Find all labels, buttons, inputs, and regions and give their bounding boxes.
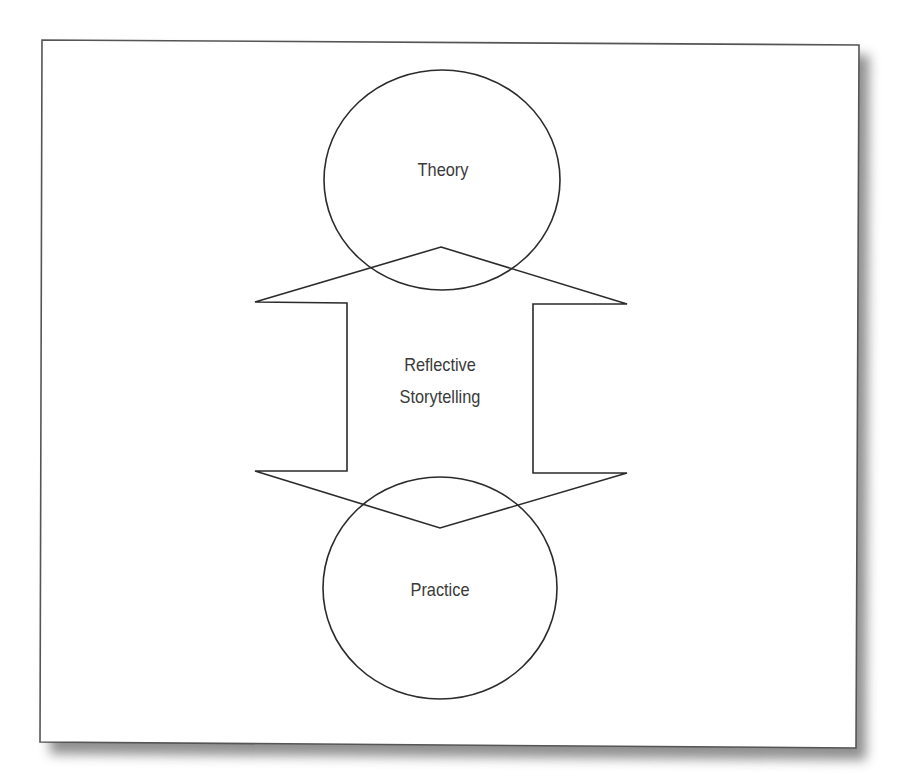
connector-label-line2: Storytelling — [400, 381, 481, 413]
theory-label: Theory — [418, 154, 469, 186]
connector-label-line1: Reflective — [404, 349, 476, 381]
diagram-canvas: Theory Reflective Storytelling Practice — [0, 0, 914, 782]
practice-label: Practice — [410, 574, 469, 606]
